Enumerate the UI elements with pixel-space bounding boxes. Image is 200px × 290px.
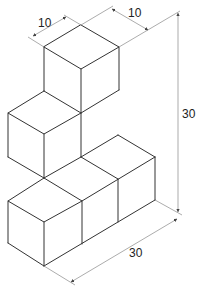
- cube-edges: [8, 25, 155, 266]
- dim-label-top-right: 10: [128, 6, 142, 20]
- dim-label-height: 30: [182, 107, 196, 121]
- dim-label-length: 30: [129, 246, 143, 260]
- isometric-drawing: 10 10 30 30: [0, 0, 200, 290]
- dim-label-top-left: 10: [38, 16, 52, 30]
- dimension-lines: [28, 6, 182, 285]
